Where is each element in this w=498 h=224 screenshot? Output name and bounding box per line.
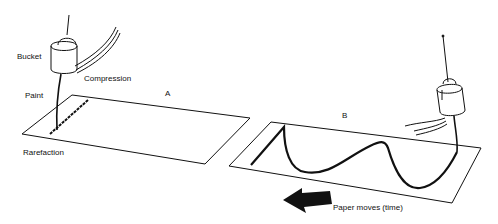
pendulum-paint-diagram: Bucket Compression Paint A Rarefaction B…: [0, 0, 498, 224]
paper-direction-arrow: [283, 188, 332, 213]
paint-trace-a: [50, 100, 88, 134]
panel-a-label: A: [165, 90, 170, 98]
swing-arc-a: [75, 27, 116, 66]
paint-trace-b: [251, 127, 457, 188]
bucket-label: Bucket: [17, 53, 41, 61]
pendulum-string-b: [443, 36, 448, 82]
panel-b-label: B: [342, 112, 347, 120]
paper-b: [229, 122, 481, 203]
rarefaction-label: Rarefaction: [23, 149, 64, 157]
paint-stream-b: [454, 116, 457, 152]
diagram-drawing: [0, 0, 498, 224]
paper-moves-label: Paper moves (time): [333, 204, 403, 212]
paint-label: Paint: [25, 92, 43, 100]
pendulum-string-a: [67, 15, 69, 35]
bucket-b: [437, 79, 465, 116]
bucket-a: [51, 38, 77, 73]
paint-stream-a: [57, 74, 61, 130]
swing-arc-b: [405, 118, 445, 126]
compression-label: Compression: [84, 75, 131, 83]
